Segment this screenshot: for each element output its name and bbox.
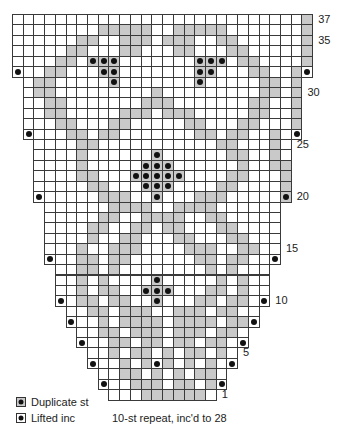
duplicate-st-dot-icon <box>133 173 139 179</box>
duplicate-st-dot-icon <box>197 79 203 85</box>
duplicate-st-dot-icon <box>143 163 149 169</box>
row-number-label: 5 <box>243 346 249 358</box>
legend-lifted-inc: Lifted inc <box>16 412 75 424</box>
chart-cell <box>291 108 303 119</box>
chart-cell <box>259 264 271 275</box>
chart-cell <box>226 358 238 369</box>
duplicate-st-dot-icon <box>165 163 171 169</box>
chart-cell <box>216 368 228 379</box>
chart-cell <box>301 24 313 35</box>
duplicate-st-dot-icon <box>165 183 171 189</box>
chart-cell <box>259 295 271 306</box>
duplicate-st-dot-icon <box>165 288 171 294</box>
chart-cell <box>301 45 313 56</box>
chart-cell <box>226 347 238 358</box>
row-number-label: 35 <box>318 34 330 46</box>
duplicate-st-dot-icon <box>154 288 160 294</box>
duplicate-st-swatch-icon <box>16 397 26 407</box>
duplicate-st-dot-icon <box>197 58 203 64</box>
chart-cell <box>259 275 271 286</box>
duplicate-st-dot-icon <box>154 173 160 179</box>
lifted-inc-dot-icon <box>261 298 267 304</box>
legend-duplicate-st: Duplicate st <box>16 396 88 408</box>
chart-cell <box>248 316 260 327</box>
chart-cell <box>280 191 292 202</box>
duplicate-st-dot-icon <box>154 183 160 189</box>
chart-cell <box>280 149 292 160</box>
duplicate-st-dot-icon <box>143 173 149 179</box>
chart-cell <box>291 97 303 108</box>
lifted-inc-dot-icon <box>294 131 300 137</box>
row-number-label: 15 <box>286 242 298 254</box>
lifted-inc-swatch-icon <box>16 413 26 423</box>
chart-cell <box>301 56 313 67</box>
lifted-inc-dot-icon <box>68 319 74 325</box>
lifted-inc-dot-icon <box>26 131 32 137</box>
duplicate-st-dot-icon <box>143 288 149 294</box>
duplicate-st-dot-icon <box>143 183 149 189</box>
row-number-label: 10 <box>275 294 287 306</box>
duplicate-st-dot-icon <box>165 173 171 179</box>
lifted-inc-dot-icon <box>283 194 289 200</box>
duplicate-st-dot-icon <box>154 163 160 169</box>
duplicate-st-dot-icon <box>101 58 107 64</box>
chart-cell <box>248 306 260 317</box>
chart-cell <box>301 35 313 46</box>
lifted-inc-dot-icon <box>219 381 225 387</box>
lifted-inc-dot-icon <box>90 361 96 367</box>
chart-cell <box>301 66 313 77</box>
chart-cell <box>280 139 292 150</box>
lifted-inc-dot-icon <box>154 361 160 367</box>
chart-cell <box>280 170 292 181</box>
duplicate-st-dot-icon <box>111 58 117 64</box>
lifted-inc-dot-icon <box>58 298 64 304</box>
lifted-inc-dot-icon <box>47 256 53 262</box>
lifted-inc-dot-icon <box>36 194 42 200</box>
chart-cell <box>291 77 303 88</box>
chart-cell <box>269 243 281 254</box>
row-number-label: 1 <box>222 388 228 400</box>
lifted-inc-dot-icon <box>272 256 278 262</box>
duplicate-st-dot-icon <box>154 152 160 158</box>
knitting-chart: 1510152025303537 <box>0 0 339 432</box>
duplicate-st-dot-icon <box>154 298 160 304</box>
chart-caption: 10-st repeat, inc'd to 28 <box>112 412 227 424</box>
duplicate-st-dot-icon <box>219 58 225 64</box>
chart-cell <box>205 389 217 400</box>
duplicate-st-dot-icon <box>111 69 117 75</box>
chart-cell <box>280 181 292 192</box>
chart-cell <box>291 118 303 129</box>
legend-duplicate-label: Duplicate st <box>31 396 88 408</box>
row-number-label: 20 <box>297 190 309 202</box>
chart-cell <box>269 202 281 213</box>
lifted-inc-dot-icon <box>101 381 107 387</box>
lifted-inc-dot-icon <box>79 340 85 346</box>
duplicate-st-dot-icon <box>197 69 203 75</box>
chart-cell <box>269 233 281 244</box>
duplicate-st-dot-icon <box>101 69 107 75</box>
chart-cell <box>301 14 313 25</box>
row-number-label: 30 <box>307 86 319 98</box>
duplicate-st-dot-icon <box>154 194 160 200</box>
duplicate-st-dot-icon <box>111 79 117 85</box>
chart-cell <box>280 160 292 171</box>
duplicate-st-dot-icon <box>90 58 96 64</box>
chart-cell <box>291 87 303 98</box>
duplicate-st-dot-icon <box>208 58 214 64</box>
lifted-inc-dot-icon <box>240 340 246 346</box>
chart-cell <box>237 327 249 338</box>
lifted-inc-dot-icon <box>304 69 310 75</box>
duplicate-st-dot-icon <box>176 173 182 179</box>
duplicate-st-dot-icon <box>208 69 214 75</box>
lifted-inc-dot-icon <box>229 361 235 367</box>
chart-cell <box>269 254 281 265</box>
lifted-inc-dot-icon <box>251 319 257 325</box>
legend-lifted-label: Lifted inc <box>31 412 75 424</box>
chart-cell <box>269 222 281 233</box>
row-number-label: 37 <box>318 13 330 25</box>
duplicate-st-dot-icon <box>154 277 160 283</box>
chart-cell <box>259 285 271 296</box>
chart-cell <box>269 212 281 223</box>
row-number-label: 25 <box>297 138 309 150</box>
lifted-inc-dot-icon <box>15 69 21 75</box>
